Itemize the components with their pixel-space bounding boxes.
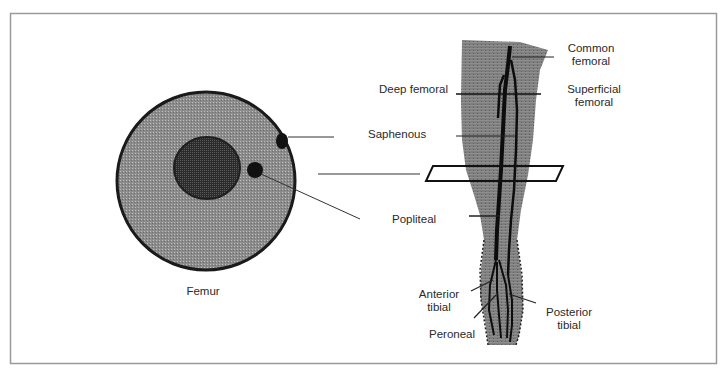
label-posterior-tibial: Posterior tibial [539,306,599,332]
label-femur: Femur [178,285,228,298]
label-deep-femoral: Deep femoral [379,83,448,96]
label-popliteal: Popliteal [392,213,436,226]
label-common-femoral-line1: Common [556,42,626,55]
femur-bone [174,137,240,199]
label-anterior-tibial-line1: Anterior [414,288,464,301]
diagram-figure: Femur Common femoral Superficial femoral… [0,0,728,382]
thigh-cross-section [117,92,420,270]
label-common-femoral: Common femoral [556,42,626,68]
label-superficial-femoral-line1: Superficial [556,83,632,96]
label-superficial-femoral: Superficial femoral [556,83,632,109]
label-peroneal: Peroneal [429,328,475,341]
label-posterior-tibial-line2: tibial [539,319,599,332]
popliteal-vein-dot [247,162,263,178]
label-superficial-femoral-line2: femoral [556,96,632,109]
label-anterior-tibial-line2: tibial [414,301,464,314]
label-common-femoral-line2: femoral [556,55,626,68]
saphenous-vein-dot [276,133,288,149]
label-saphenous: Saphenous [368,128,426,141]
label-posterior-tibial-line1: Posterior [539,306,599,319]
label-anterior-tibial: Anterior tibial [414,288,464,314]
